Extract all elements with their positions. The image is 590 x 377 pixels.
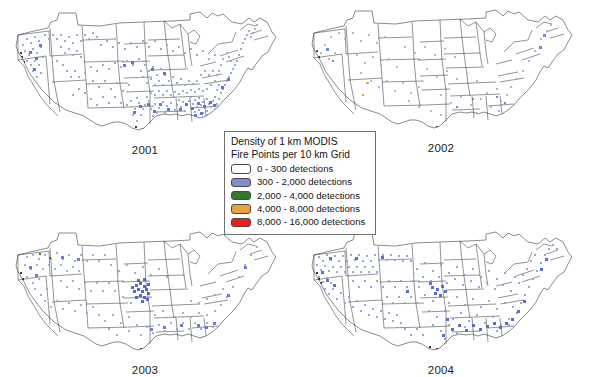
legend-title-line-2: Fire Points per 10 km Grid [231,149,370,162]
us-map-2004 [300,224,582,369]
legend-entry: 300 - 2,000 detections [231,176,370,189]
density-legend: Density of 1 km MODIS Fire Points per 10… [224,131,376,235]
state-boundaries [312,10,572,128]
fire-density-figure: 2001 [0,0,590,377]
legend-swatch-icon [231,164,251,174]
legend-swatch-icon [231,178,251,188]
panel-year-label-2004: 2004 [300,364,582,376]
state-boundaries [16,12,276,130]
legend-swatch-icon [231,204,251,214]
legend-entry-label: 8,000 - 16,000 detections [257,217,365,227]
legend-title-line-1: Density of 1 km MODIS [231,136,370,149]
state-boundaries [312,232,572,350]
legend-entry: 4,000 - 8,000 detections [231,202,370,215]
legend-swatch-icon [231,218,251,228]
legend-entry: 8,000 - 16,000 detections [231,216,370,229]
legend-entry: 2,000 - 4,000 detections [231,189,370,202]
legend-entry-label: 4,000 - 8,000 detections [257,204,360,214]
us-map-2001 [4,4,286,149]
us-map-2002 [300,2,582,147]
legend-swatch-icon [231,191,251,201]
legend-entry-label: 0 - 300 detections [257,164,333,174]
panel-year-label-2003: 2003 [4,364,286,376]
legend-entry-list: 0 - 300 detections 300 - 2,000 detection… [231,162,370,229]
map-panel-2003: 2003 [4,224,286,377]
map-panel-2004: 2004 [300,224,582,377]
legend-entry-label: 2,000 - 4,000 detections [257,191,360,201]
us-map-2003 [4,224,286,369]
legend-entry-label: 300 - 2,000 detections [257,177,352,187]
legend-entry: 0 - 300 detections [231,162,370,175]
